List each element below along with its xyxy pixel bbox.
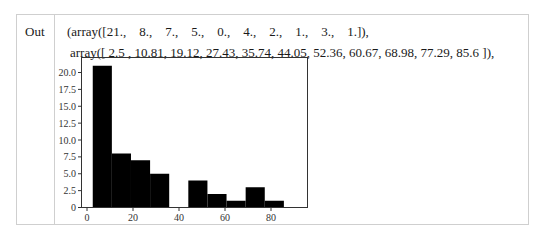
histogram-bar (227, 201, 246, 208)
x-tick-label: 0 (85, 212, 90, 223)
y-tick-label: 2.5 (64, 185, 77, 196)
histogram-bars (93, 66, 284, 208)
histogram-bar (188, 181, 207, 208)
histogram-bar (93, 66, 112, 208)
y-tick-label: 5.0 (64, 168, 77, 179)
x-tick-label: 40 (174, 212, 184, 223)
histogram-plot: 02.55.07.510.012.515.017.520.0 020406080 (0, 0, 544, 237)
y-tick-label: 0 (71, 202, 76, 213)
y-tick-label: 7.5 (64, 151, 77, 162)
y-tick-label: 17.5 (59, 84, 77, 95)
y-axis: 02.55.07.510.012.515.017.520.0 (59, 67, 82, 213)
histogram-bar (207, 194, 226, 208)
histogram-bar (131, 160, 150, 207)
y-tick-label: 10.0 (59, 135, 77, 146)
histogram-bar (150, 174, 169, 208)
y-tick-label: 15.0 (59, 101, 77, 112)
histogram-bar (265, 201, 284, 208)
histogram-bar (112, 154, 131, 208)
x-tick-label: 60 (220, 212, 230, 223)
x-axis: 020406080 (85, 208, 277, 224)
x-tick-label: 20 (128, 212, 138, 223)
histogram-bar (246, 187, 265, 207)
y-tick-label: 12.5 (59, 118, 77, 129)
y-tick-label: 20.0 (59, 67, 77, 78)
x-tick-label: 80 (266, 212, 276, 223)
